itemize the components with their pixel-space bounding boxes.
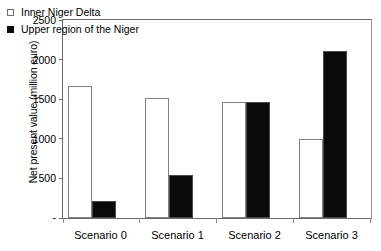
bars-layer: [63, 20, 371, 218]
legend-swatch-open-icon: [7, 9, 14, 16]
bar-2-series-0[interactable]: [222, 102, 246, 218]
y-tick-label: 1500: [33, 91, 56, 107]
x-tick-1: [216, 218, 217, 223]
bar-3-series-0[interactable]: [299, 139, 323, 218]
x-tick-3: [370, 218, 371, 223]
x-tick-0: [139, 218, 140, 223]
legend-item-1[interactable]: Upper region of the Niger: [7, 21, 139, 38]
bar-0-series-0[interactable]: [68, 86, 92, 218]
legend-label: Inner Niger Delta: [21, 6, 100, 19]
legend-label: Upper region of the Niger: [21, 23, 139, 36]
bar-group-2: [217, 20, 294, 218]
x-label-3: Scenario 3: [287, 228, 377, 242]
y-tick-mark: [59, 59, 63, 60]
bar-group-0: [63, 20, 140, 218]
plot-area: -5001000150020002500: [62, 19, 372, 219]
bar-group-3: [294, 20, 371, 218]
bar-1-series-0[interactable]: [145, 98, 169, 218]
bar-3-series-1[interactable]: [323, 51, 347, 219]
bar-group-1: [140, 20, 217, 218]
y-tick-mark: [59, 138, 63, 139]
y-tick-label: -: [53, 209, 57, 225]
bar-0-series-1[interactable]: [92, 201, 116, 218]
legend-swatch-filled-icon: [7, 26, 14, 33]
y-tick-mark: [59, 218, 63, 219]
legend-item-0[interactable]: Inner Niger Delta: [7, 4, 139, 21]
chart-legend: Inner Niger DeltaUpper region of the Nig…: [7, 4, 139, 38]
bar-2-series-1[interactable]: [246, 102, 270, 218]
y-tick-mark: [59, 99, 63, 100]
y-tick-mark: [59, 178, 63, 179]
bar-1-series-1[interactable]: [169, 175, 193, 218]
y-tick-label: 1000: [33, 131, 56, 147]
x-tick-2: [293, 218, 294, 223]
x-tick-origin: [63, 218, 64, 223]
chart-figure: Net present value (million euro) -500100…: [0, 0, 381, 251]
y-tick-label: 500: [38, 170, 56, 186]
y-tick-label: 2000: [33, 52, 56, 68]
